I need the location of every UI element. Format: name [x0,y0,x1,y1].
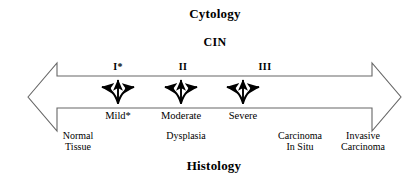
endpoint-normal-tissue: Normal Tissue [63,131,94,153]
endpoint-normal-tissue-line2: Tissue [63,142,94,153]
trident-markers-group [0,0,417,181]
scale-label-cin: CIN [204,36,227,49]
cin-grade-3: III [259,62,272,73]
page-title-cytology: Cytology [189,7,240,21]
page-title-histology: Histology [187,159,242,173]
endpoint-invasive-carcinoma: Invasive Carcinoma [341,131,385,153]
endpoint-invasive-carcinoma-line2: Carcinoma [341,142,385,153]
dysplasia-grade-mild: Mild* [105,110,131,121]
trident-marker-1 [102,80,134,104]
dysplasia-grade-moderate: Moderate [161,110,201,121]
cin-grade-1: I* [113,62,123,73]
cin-grade-2: II [179,62,188,73]
cytology-histology-diagram: Cytology CIN Histology I* II III Mild* M… [0,0,417,181]
endpoint-carcinoma-in-situ: Carcinoma In Situ [278,131,322,153]
trident-marker-2 [165,80,197,104]
dysplasia-grade-severe: Severe [229,110,258,121]
endpoint-dysplasia-line1: Dysplasia [166,131,205,142]
endpoint-dysplasia: Dysplasia [166,131,205,142]
endpoint-carcinoma-in-situ-line2: In Situ [278,142,322,153]
trident-marker-3 [227,80,259,104]
